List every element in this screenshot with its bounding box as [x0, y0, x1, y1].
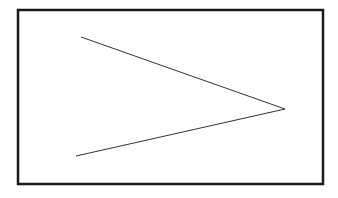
chevron-right-shape — [76, 37, 285, 156]
diagram-canvas — [0, 0, 338, 198]
frame-rectangle — [18, 10, 323, 184]
